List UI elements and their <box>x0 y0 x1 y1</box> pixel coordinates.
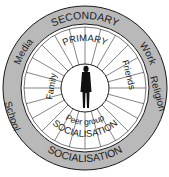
socialisation-diagram: SECONDARY SOCIALISATION Media Work Schoo… <box>0 0 169 177</box>
